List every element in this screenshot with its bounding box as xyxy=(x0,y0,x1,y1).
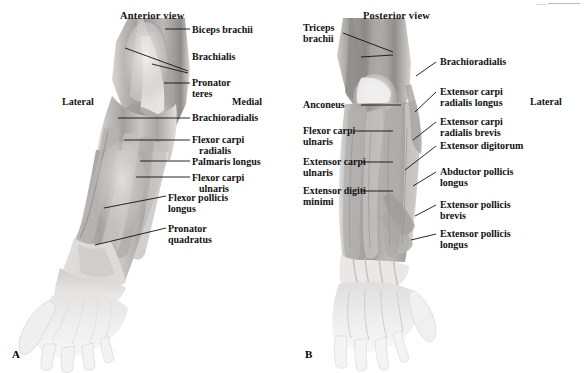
label-triceps-brachii-line2: brachii xyxy=(303,33,334,44)
label-flexor-pollicis-longus-line2: longus xyxy=(168,203,228,214)
label-triceps-brachii: Triceps brachii xyxy=(303,22,334,44)
label-brachioradialis-b: Brachioradialis xyxy=(440,56,506,67)
label-extensor-pollicis-longus-line1: Extensor pollicis xyxy=(440,228,511,239)
leader-triceps-brachii-upper xyxy=(343,33,393,52)
label-flexor-carpi-ulnaris-b-line1: Flexor carpi xyxy=(303,125,355,136)
leader-pronator-quadratus xyxy=(95,228,166,245)
leader-brachialis-upper xyxy=(125,48,188,71)
label-extensor-carpi-radialis-brevis: Extensor carpi radialis brevis xyxy=(440,116,503,138)
label-extensor-digiti-minimi-line2: minimi xyxy=(303,196,366,207)
leader-triceps-brachii-lower xyxy=(361,55,393,57)
label-pronator-teres-line1: Pronator xyxy=(192,77,231,88)
label-flexor-carpi-radialis-line2: radialis xyxy=(192,145,244,156)
label-flexor-carpi-ulnaris-line1: Flexor carpi xyxy=(192,172,244,183)
panel-letter-a: A xyxy=(12,348,20,360)
panel-letter-b: B xyxy=(305,348,312,360)
label-anconeus: Anconeus xyxy=(303,99,345,110)
label-flexor-pollicis-longus-line1: Flexor pollicis xyxy=(168,192,228,203)
panel-anterior-view: Anterior view Lateral Medial Biceps brac… xyxy=(0,0,293,373)
label-pronator-quadratus-line1: Pronator xyxy=(168,223,207,234)
label-triceps-brachii-line1: Triceps xyxy=(303,22,334,33)
label-extensor-carpi-radialis-brevis-line1: Extensor carpi xyxy=(440,116,503,127)
label-pronator-teres: Pronator teres xyxy=(192,77,231,99)
label-extensor-digitorum: Extensor digitorum xyxy=(440,140,523,151)
label-brachioradialis-b-line1: Brachioradialis xyxy=(440,56,506,67)
label-extensor-pollicis-longus: Extensor pollicis longus xyxy=(440,228,511,250)
anterior-leader-lines xyxy=(0,0,293,373)
orientation-label-lateral-b: Lateral xyxy=(530,96,562,107)
leader-extensor-pollicis-longus xyxy=(411,234,436,240)
label-flexor-carpi-ulnaris-b-line2: ulnaris xyxy=(303,136,355,147)
label-flexor-carpi-radialis: Flexor carpi radialis xyxy=(192,134,244,156)
label-pronator-quadratus: Pronator quadratus xyxy=(168,223,212,245)
label-extensor-pollicis-brevis-line2: brevis xyxy=(440,210,511,221)
view-title-posterior: Posterior view xyxy=(363,10,430,21)
label-extensor-carpi-radialis-longus-line2: radialis longus xyxy=(440,97,503,108)
label-brachialis: Brachialis xyxy=(192,51,235,62)
anterior-arm-illustration xyxy=(0,0,293,373)
orientation-label-lateral-a: Lateral xyxy=(62,96,94,107)
label-abductor-pollicis-longus: Abductor pollicis longus xyxy=(440,166,513,188)
label-extensor-digiti-minimi-line1: Extensor digiti xyxy=(303,185,366,196)
label-extensor-carpi-radialis-brevis-line2: radialis brevis xyxy=(440,127,503,138)
label-extensor-digiti-minimi: Extensor digiti minimi xyxy=(303,185,366,207)
label-extensor-digitorum-line1: Extensor digitorum xyxy=(440,140,523,151)
label-biceps-brachii-line1: Biceps brachii xyxy=(192,24,253,35)
label-pronator-teres-line2: teres xyxy=(192,88,231,99)
label-anconeus-line1: Anconeus xyxy=(303,99,345,110)
leader-flexor-pollicis-longus xyxy=(104,196,166,208)
leader-brachioradialis-b xyxy=(416,62,436,76)
label-extensor-carpi-ulnaris-line1: Extensor carpi xyxy=(303,156,366,167)
label-extensor-carpi-ulnaris: Extensor carpi ulnaris xyxy=(303,156,366,178)
leader-abductor-pollicis-longus xyxy=(413,172,436,186)
label-extensor-pollicis-brevis: Extensor pollicis brevis xyxy=(440,199,511,221)
label-flexor-carpi-radialis-line1: Flexor carpi xyxy=(192,134,244,145)
label-palmaris-longus: Palmaris longus xyxy=(192,156,261,167)
label-pronator-quadratus-line2: quadratus xyxy=(168,234,212,245)
label-brachioradialis: Brachioradialis xyxy=(192,112,258,123)
label-brachioradialis-line1: Brachioradialis xyxy=(192,112,258,123)
leader-extensor-carpi-radialis-brevis xyxy=(413,122,436,140)
leader-extensor-digitorum xyxy=(405,146,436,170)
leader-brachialis-lower xyxy=(152,64,188,73)
label-extensor-carpi-ulnaris-line2: ulnaris xyxy=(303,167,366,178)
label-extensor-pollicis-brevis-line1: Extensor pollicis xyxy=(440,199,511,210)
label-biceps-brachii: Biceps brachii xyxy=(192,24,253,35)
label-abductor-pollicis-longus-line1: Abductor pollicis xyxy=(440,166,513,177)
view-title-anterior: Anterior view xyxy=(120,10,185,21)
label-palmaris-longus-line1: Palmaris longus xyxy=(192,156,261,167)
label-flexor-pollicis-longus: Flexor pollicis longus xyxy=(168,192,228,214)
leader-extensor-carpi-radialis-longus xyxy=(415,92,436,112)
label-extensor-pollicis-longus-line2: longus xyxy=(440,239,511,250)
leader-extensor-pollicis-brevis xyxy=(415,205,436,216)
label-flexor-carpi-ulnaris-b: Flexor carpi ulnaris xyxy=(303,125,355,147)
label-extensor-carpi-radialis-longus-line1: Extensor carpi xyxy=(440,86,503,97)
label-extensor-carpi-radialis-longus: Extensor carpi radialis longus xyxy=(440,86,503,108)
orientation-label-medial-a: Medial xyxy=(232,96,262,107)
label-abductor-pollicis-longus-line2: longus xyxy=(440,177,513,188)
anatomy-plate: Anterior view Lateral Medial Biceps brac… xyxy=(0,0,586,373)
label-brachialis-line1: Brachialis xyxy=(192,51,235,62)
panel-posterior-view: Posterior view Lateral Triceps brachii A… xyxy=(293,0,586,373)
